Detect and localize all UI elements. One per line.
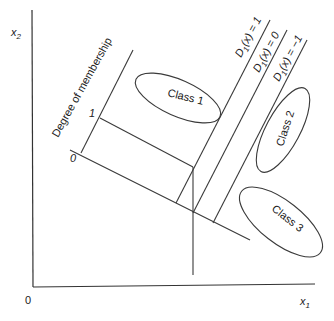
membership-axis-title: Degree of membership [49,35,114,139]
class-2-label: Class 2 [273,109,296,148]
class-3-ellipse [229,175,334,270]
membership-one-line [100,118,193,167]
membership-diagram: x2 0 x1 Degree of membership 1 0 D1(x) =… [0,0,334,321]
membership-zero-line [70,150,250,240]
y-axis [32,10,33,287]
class-1-cluster: Class 1 [129,63,228,133]
membership-tick-zero: 0 [70,152,77,164]
x1-axis-label: x1 [299,295,310,310]
origin-label: 0 [25,294,31,306]
class-3-label: Class 3 [270,202,306,234]
x2-axis-label: x2 [10,26,22,41]
class-3-cluster: Class 3 [229,175,334,270]
class-2-cluster: Class 2 [246,81,320,180]
membership-tick-one: 1 [89,107,95,119]
x-axis [33,284,315,287]
decision-line-plus-one [176,20,270,203]
